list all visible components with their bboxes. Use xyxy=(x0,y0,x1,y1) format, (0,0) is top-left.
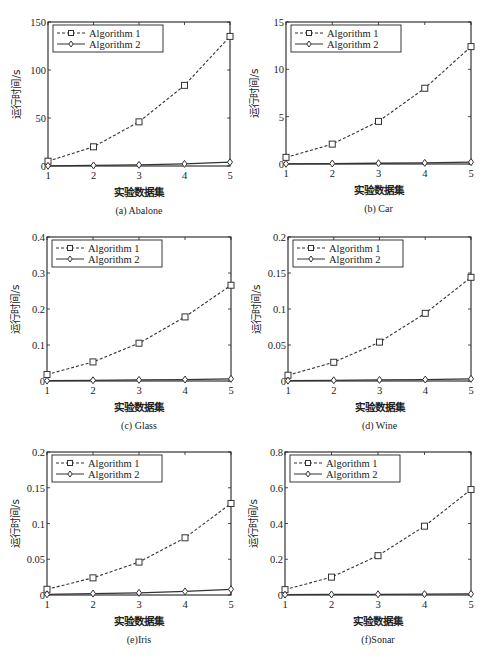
diamond-marker xyxy=(422,591,427,598)
plot-frame xyxy=(285,452,471,595)
diamond-marker xyxy=(183,588,188,595)
y-tick-label: 0.05 xyxy=(268,340,286,351)
series-line-1 xyxy=(286,47,471,158)
x-axis-label: 实验数据集 xyxy=(355,401,406,413)
square-marker xyxy=(44,372,50,378)
x-axis-label: 实验数据集 xyxy=(114,615,165,627)
y-tick-label: 10 xyxy=(274,64,285,75)
chart-svg-glass: 1234500.10.20.30.4Algorithm 1Algorithm 2… xyxy=(0,0,486,661)
chart-panel-car: 12345051015Algorithm 1Algorithm 2运行时间/s实… xyxy=(0,0,486,661)
legend-label-1: Algorithm 1 xyxy=(326,458,378,469)
series-line-2 xyxy=(285,594,471,595)
square-marker xyxy=(227,33,233,39)
chart-svg-wine: 1234500.050.10.150.2Algorithm 1Algorithm… xyxy=(0,0,486,661)
chart-panel-abalone: 12345050100150Algorithm 1Algorithm 2运行时间… xyxy=(0,0,486,661)
diamond-marker xyxy=(469,375,474,382)
x-tick-label: 4 xyxy=(182,170,188,181)
x-tick-label: 1 xyxy=(44,599,49,610)
x-axis-label: 实验数据集 xyxy=(354,184,405,196)
square-marker xyxy=(282,587,288,593)
x-tick-label: 1 xyxy=(45,170,50,181)
plot-frame xyxy=(47,237,231,381)
square-marker xyxy=(136,119,142,125)
diamond-marker xyxy=(286,377,291,384)
x-tick-label: 4 xyxy=(423,385,429,396)
x-tick-label: 4 xyxy=(422,168,428,179)
y-tick-label: 0.1 xyxy=(32,519,45,530)
diamond-marker xyxy=(229,586,234,593)
legend: Algorithm 1Algorithm 2 xyxy=(53,25,163,52)
legend: Algorithm 1Algorithm 2 xyxy=(52,455,162,482)
diamond-marker xyxy=(377,376,382,383)
diamond-marker xyxy=(182,160,187,167)
y-tick-label: 0 xyxy=(40,590,45,601)
x-tick-label: 3 xyxy=(375,599,380,610)
diamond-marker xyxy=(284,160,289,167)
y-tick-label: 0.2 xyxy=(273,232,286,243)
y-tick-label: 0 xyxy=(281,376,286,387)
square-marker xyxy=(45,158,51,164)
chart-caption: (b) Car xyxy=(364,203,393,215)
x-tick-label: 1 xyxy=(285,385,290,396)
square-marker xyxy=(91,144,97,150)
y-tick-label: 5 xyxy=(279,112,284,123)
y-tick-label: 50 xyxy=(36,113,47,124)
y-tick-label: 0.05 xyxy=(27,554,45,565)
y-tick-label: 0.1 xyxy=(273,304,286,315)
y-tick-label: 0.3 xyxy=(32,268,45,279)
y-tick-label: 100 xyxy=(30,65,46,76)
chart-svg-abalone: 12345050100150Algorithm 1Algorithm 2运行时间… xyxy=(0,0,486,661)
square-marker xyxy=(422,523,428,529)
square-marker xyxy=(468,487,474,493)
x-tick-label: 2 xyxy=(330,168,335,179)
square-marker xyxy=(182,535,188,541)
square-marker xyxy=(228,282,234,288)
chart-svg-car: 12345051015Algorithm 1Algorithm 2运行时间/s实… xyxy=(0,0,486,661)
legend-label-1: Algorithm 1 xyxy=(89,28,141,39)
square-marker xyxy=(283,154,289,160)
diamond-marker xyxy=(330,160,335,167)
plot-frame xyxy=(286,22,471,164)
series-line-1 xyxy=(288,277,471,375)
chart-caption: (f)Sonar xyxy=(361,634,395,646)
diamond-marker xyxy=(376,160,381,167)
legend-label-1: Algorithm 1 xyxy=(88,243,140,254)
square-marker xyxy=(90,359,96,365)
diamond-marker xyxy=(91,590,96,597)
y-tick-label: 0 xyxy=(278,590,283,601)
x-tick-label: 5 xyxy=(228,385,233,396)
x-axis-label: 实验数据集 xyxy=(114,186,165,198)
square-marker xyxy=(468,44,474,50)
x-axis-label: 实验数据集 xyxy=(114,401,165,413)
x-tick-label: 2 xyxy=(331,385,336,396)
x-tick-label: 4 xyxy=(422,599,428,610)
square-marker xyxy=(376,118,382,124)
y-tick-label: 0.2 xyxy=(32,304,45,315)
series-line-2 xyxy=(47,589,231,594)
y-tick-label: 0.8 xyxy=(270,447,283,458)
diamond-marker xyxy=(422,159,427,166)
y-tick-label: 150 xyxy=(30,17,46,28)
square-marker xyxy=(228,500,234,506)
x-tick-label: 2 xyxy=(329,599,334,610)
square-marker xyxy=(136,559,142,565)
y-tick-label: 0.2 xyxy=(32,447,45,458)
square-marker xyxy=(136,340,142,346)
y-tick-label: 0 xyxy=(40,376,45,387)
chart-panel-wine: 1234500.050.10.150.2Algorithm 1Algorithm… xyxy=(0,0,486,661)
x-tick-label: 5 xyxy=(227,170,232,181)
y-axis-label: 运行时间/s xyxy=(248,68,260,117)
square-marker xyxy=(182,82,188,88)
chart-caption: (e)Iris xyxy=(127,634,152,646)
y-tick-label: 0.2 xyxy=(270,554,283,565)
square-marker xyxy=(468,274,474,280)
legend: Algorithm 1Algorithm 2 xyxy=(290,455,400,482)
y-axis-label: 运行时间/s xyxy=(250,284,262,333)
diamond-marker xyxy=(331,377,336,384)
diamond-marker xyxy=(329,591,334,598)
diamond-marker xyxy=(469,159,474,166)
legend-label-2: Algorithm 2 xyxy=(89,39,141,50)
series-line-2 xyxy=(48,162,230,166)
y-tick-label: 0.4 xyxy=(32,232,46,243)
square-marker xyxy=(182,314,188,320)
